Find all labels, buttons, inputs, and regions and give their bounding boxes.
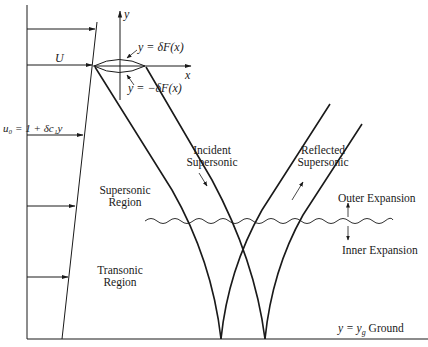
upper-surface-leader xyxy=(127,50,137,58)
velocity-profile-label: u₀ = 1 + δc₁y xyxy=(3,122,62,134)
diagram-canvas xyxy=(0,0,428,347)
supersonic-region-line2: Region xyxy=(90,196,160,208)
reflected-supersonic-label: Reflected Supersonic xyxy=(292,144,354,168)
ground-subscript: g xyxy=(362,328,366,337)
transonic-region-line1: Transonic xyxy=(85,264,155,276)
reflected-direction-arrow xyxy=(292,182,303,200)
ground-eq: y = y xyxy=(338,322,362,334)
upper-surface-label: y = δF(x) xyxy=(138,41,184,53)
reflected-wave-1 xyxy=(221,104,330,339)
inner-expansion-label: Inner Expansion xyxy=(342,244,418,256)
ground-label: y = yg Ground xyxy=(338,322,404,339)
lower-surface-label: y = −δF(x) xyxy=(128,82,182,94)
ground-word: Ground xyxy=(369,322,404,334)
reflected-label-line2: Supersonic xyxy=(292,156,354,168)
incident-direction-arrow xyxy=(199,173,207,186)
transonic-region-label: Transonic Region xyxy=(85,264,155,288)
reflected-label-line1: Reflected xyxy=(292,144,354,156)
velocity-profile-line xyxy=(62,22,97,339)
incident-wave-trailing xyxy=(146,67,265,339)
supersonic-region-label: Supersonic Region xyxy=(90,184,160,208)
supersonic-region-line1: Supersonic xyxy=(90,184,160,196)
freestream-label: U xyxy=(55,52,64,64)
transonic-region-line2: Region xyxy=(85,276,155,288)
x-axis-label: x xyxy=(185,69,190,81)
y-axis-label: y xyxy=(124,8,129,20)
matching-interface-wavy-line xyxy=(145,218,393,223)
outer-expansion-label: Outer Expansion xyxy=(338,192,416,204)
incident-label-line1: Incident xyxy=(182,144,242,156)
incident-label-line2: Supersonic xyxy=(182,156,242,168)
velocity-arrows xyxy=(27,29,95,277)
incident-supersonic-label: Incident Supersonic xyxy=(182,144,242,168)
